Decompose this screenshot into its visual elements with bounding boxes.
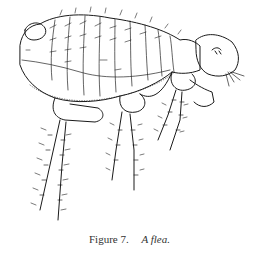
flea-illustration	[0, 0, 259, 230]
figure-caption: Figure 7. A flea.	[0, 233, 259, 245]
flea-drawing	[0, 0, 259, 230]
figure-title: A flea.	[141, 233, 170, 245]
figure-label: Figure 7.	[89, 233, 129, 245]
